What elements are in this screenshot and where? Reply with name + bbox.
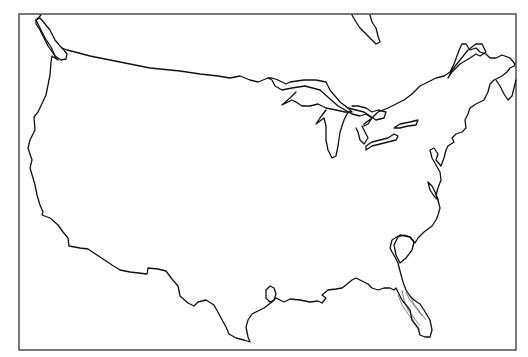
map-container: [0, 0, 528, 357]
us-outline-map: [0, 0, 528, 357]
